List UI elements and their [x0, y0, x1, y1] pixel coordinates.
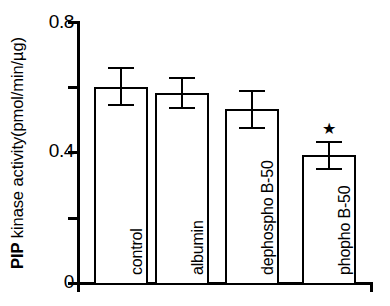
- plot-area: controlalbumindephospho B-50phopho B-50★: [77, 21, 373, 283]
- error-bar-cap-lower-1: [169, 107, 195, 110]
- y-axis-title-rest: kinase activity(pmol/min/µg): [8, 37, 26, 243]
- error-bar-cap-lower-0: [108, 104, 134, 107]
- bar-label-3: phopho B-50: [337, 186, 353, 275]
- error-bar-line-0: [120, 67, 123, 106]
- bar-label-0: control: [129, 228, 145, 275]
- error-bar-cap-lower-2: [239, 127, 265, 130]
- x-axis-right-end-tick: [370, 285, 373, 292]
- y-axis-title-bold-prefix: PIP: [8, 243, 26, 269]
- error-bar-cap-upper-3: [316, 141, 342, 144]
- error-bar-cap-lower-3: [316, 168, 342, 171]
- error-bar-line-3: [328, 141, 331, 170]
- significance-star-marker: ★: [319, 121, 339, 137]
- chart-figure: PIP kinase activity(pmol/min/µg) 0.8 0.4…: [0, 0, 390, 306]
- error-bar-cap-upper-2: [239, 90, 265, 93]
- bar-label-2: dephospho B-50: [260, 160, 276, 275]
- error-bar-cap-upper-0: [108, 67, 134, 70]
- error-bar-line-2: [251, 90, 254, 129]
- x-axis-left-end-tick: [77, 285, 80, 292]
- error-bar-cap-upper-1: [169, 77, 195, 80]
- bar-label-1: albumin: [190, 220, 206, 275]
- error-bar-line-1: [181, 77, 184, 110]
